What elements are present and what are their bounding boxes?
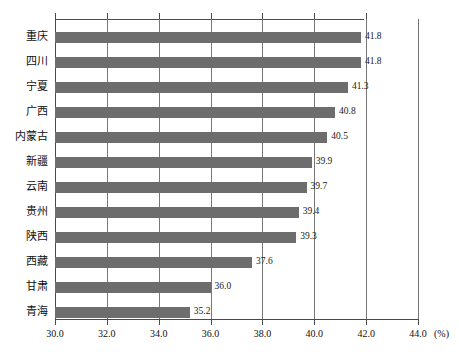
bar-广西 bbox=[55, 107, 335, 118]
bar-row: 36.0 bbox=[55, 275, 418, 300]
tick-top-32.0 bbox=[107, 13, 108, 19]
category-label-重庆: 重庆 bbox=[0, 29, 48, 44]
category-label-青海: 青海 bbox=[0, 304, 48, 319]
tick-top-36.0 bbox=[211, 13, 212, 19]
top-axis-line bbox=[55, 19, 364, 20]
bar-value-label: 41.8 bbox=[365, 54, 382, 69]
x-axis-tick-label: 30.0 bbox=[46, 327, 64, 341]
bar-row: 41.3 bbox=[55, 75, 418, 100]
bar-row: 37.6 bbox=[55, 250, 418, 275]
bar-value-label: 39.4 bbox=[303, 204, 320, 219]
bar-四川 bbox=[55, 57, 361, 68]
x-axis-unit-label: (%) bbox=[434, 327, 449, 341]
bar-value-label: 36.0 bbox=[215, 279, 232, 294]
bar-西藏 bbox=[55, 257, 252, 268]
bar-row: 35.2 bbox=[55, 300, 418, 325]
bar-row: 39.4 bbox=[55, 200, 418, 225]
bar-row: 40.5 bbox=[55, 125, 418, 150]
bar-row: 39.3 bbox=[55, 225, 418, 250]
plot-area: 41.841.841.340.840.539.939.739.439.337.6… bbox=[55, 19, 418, 319]
category-label-内蒙古: 内蒙古 bbox=[0, 129, 48, 144]
bar-value-label: 40.5 bbox=[331, 129, 348, 144]
horizontal-bar-chart: 41.841.841.340.840.539.939.739.439.337.6… bbox=[0, 0, 459, 355]
x-axis-tick-label: 40.0 bbox=[306, 327, 324, 341]
category-label-广西: 广西 bbox=[0, 104, 48, 119]
x-axis-tick-label: 36.0 bbox=[202, 327, 220, 341]
x-axis-tick-label: 32.0 bbox=[98, 327, 116, 341]
bar-value-label: 41.8 bbox=[365, 29, 382, 44]
category-label-宁夏: 宁夏 bbox=[0, 79, 48, 94]
bar-value-label: 39.9 bbox=[316, 154, 333, 169]
bar-row: 41.8 bbox=[55, 25, 418, 50]
tick-top-34.0 bbox=[159, 13, 160, 19]
category-label-四川: 四川 bbox=[0, 54, 48, 69]
bar-贵州 bbox=[55, 207, 299, 218]
bar-value-label: 39.3 bbox=[300, 229, 317, 244]
bar-value-label: 41.3 bbox=[352, 79, 369, 94]
bar-row: 39.7 bbox=[55, 175, 418, 200]
bar-陕西 bbox=[55, 232, 296, 243]
tick-top-42.0 bbox=[366, 13, 367, 19]
bar-甘肃 bbox=[55, 282, 211, 293]
bar-重庆 bbox=[55, 32, 361, 43]
bar-云南 bbox=[55, 182, 307, 193]
bar-宁夏 bbox=[55, 82, 348, 93]
bar-青海 bbox=[55, 307, 190, 318]
x-axis-tick-label: 34.0 bbox=[150, 327, 168, 341]
bar-内蒙古 bbox=[55, 132, 327, 143]
x-axis-tick-label: 44.0 bbox=[409, 327, 427, 341]
category-label-新疆: 新疆 bbox=[0, 154, 48, 169]
gridline-44.0 bbox=[418, 19, 419, 319]
bar-value-label: 35.2 bbox=[194, 304, 211, 319]
tick-top-30.0 bbox=[55, 13, 56, 19]
bar-value-label: 37.6 bbox=[256, 254, 273, 269]
bar-row: 39.9 bbox=[55, 150, 418, 175]
category-label-云南: 云南 bbox=[0, 179, 48, 194]
tick-top-40.0 bbox=[314, 13, 315, 19]
category-label-西藏: 西藏 bbox=[0, 254, 48, 269]
x-axis-tick-label: 42.0 bbox=[357, 327, 375, 341]
bar-新疆 bbox=[55, 157, 312, 168]
category-label-贵州: 贵州 bbox=[0, 204, 48, 219]
bar-value-label: 40.8 bbox=[339, 104, 356, 119]
category-label-甘肃: 甘肃 bbox=[0, 279, 48, 294]
bar-row: 40.8 bbox=[55, 100, 418, 125]
tick-bottom-44.0 bbox=[418, 319, 419, 325]
x-axis-tick-label: 38.0 bbox=[254, 327, 272, 341]
category-label-陕西: 陕西 bbox=[0, 229, 48, 244]
bar-row: 41.8 bbox=[55, 50, 418, 75]
bar-value-label: 39.7 bbox=[311, 179, 328, 194]
tick-top-38.0 bbox=[262, 13, 263, 19]
